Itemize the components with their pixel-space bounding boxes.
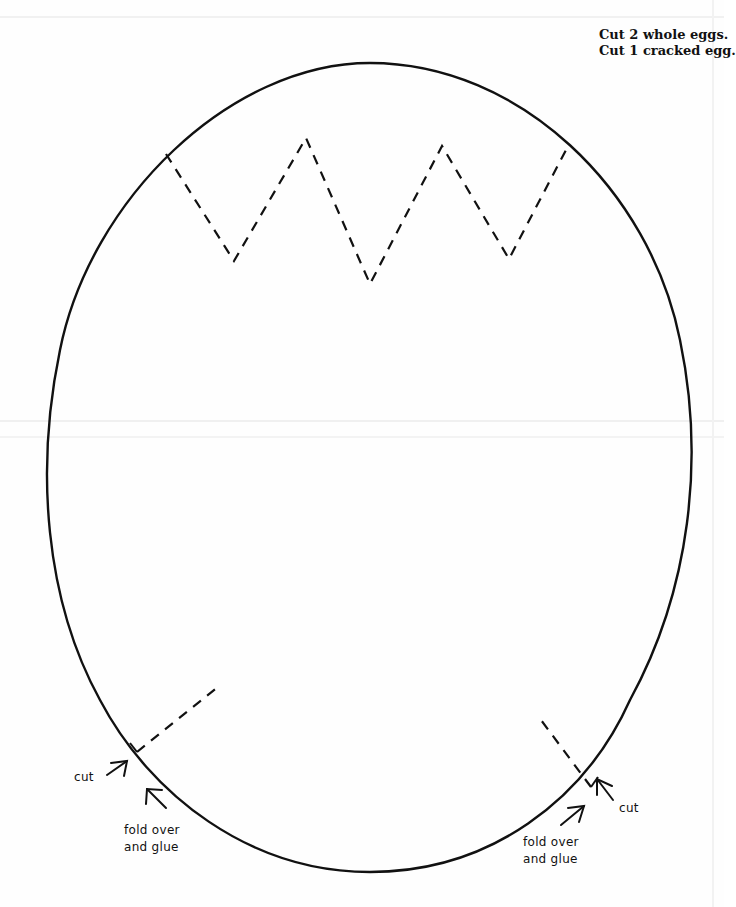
- right-cut-label: cut: [619, 800, 639, 817]
- right-fold-label: fold over and glue: [523, 834, 579, 868]
- egg-outline: [47, 63, 692, 872]
- arrow-icon-right-cut: [597, 779, 613, 800]
- crack-zigzag-dashed-line: [166, 138, 567, 284]
- left-fold-label: fold over and glue: [124, 822, 180, 856]
- arrow-icon-left-fold: [146, 789, 166, 808]
- left-fold-dashed-line: [137, 686, 219, 752]
- right-fold-dashed-line: [541, 720, 591, 787]
- arrow-icon-right-fold: [561, 806, 584, 825]
- arrow-icon-left-cut: [107, 761, 127, 776]
- left-cut-label: cut: [74, 769, 94, 786]
